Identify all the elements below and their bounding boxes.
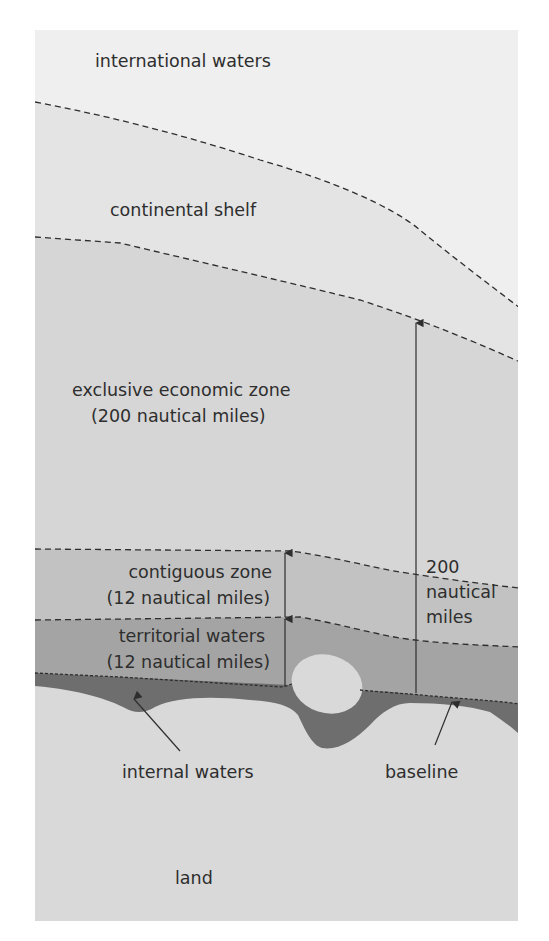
label-baseline: baseline: [385, 762, 458, 782]
label-continental-shelf: continental shelf: [110, 200, 257, 220]
label-international-waters: international waters: [95, 51, 271, 71]
label-territorial-line1: territorial waters: [119, 626, 265, 646]
zone-land: [35, 686, 520, 921]
label-contiguous-line1: contiguous zone: [128, 562, 272, 582]
label-eez-line1: exclusive economic zone: [72, 380, 291, 400]
label-measure-miles: miles: [426, 607, 473, 627]
label-measure-200: 200: [426, 557, 459, 577]
label-land: land: [175, 868, 213, 888]
label-contiguous-line2: (12 nautical miles): [106, 588, 270, 608]
label-internal-waters: internal waters: [122, 762, 254, 782]
label-measure-nautical: nautical: [426, 582, 496, 602]
label-eez-line2: (200 nautical miles): [91, 406, 266, 426]
maritime-zones-diagram: international waters continental shelf e…: [0, 0, 549, 941]
label-territorial-line2: (12 nautical miles): [106, 652, 270, 672]
